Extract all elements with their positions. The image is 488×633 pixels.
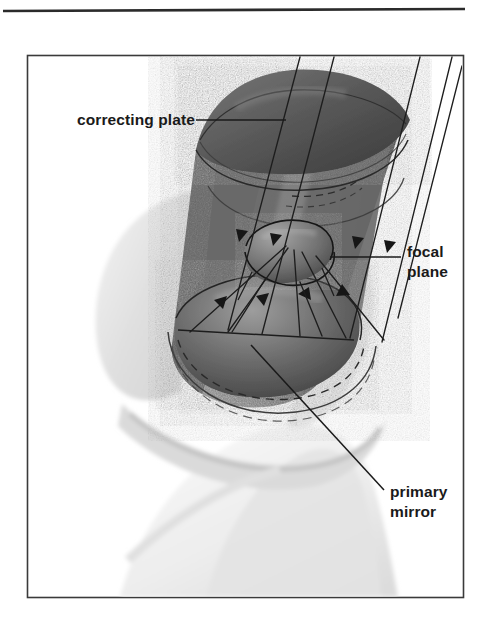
label-correcting-plate: correcting plate (77, 111, 195, 128)
label-primary-mirror-line2: mirror (390, 503, 436, 520)
label-primary-mirror-line1: primary (390, 483, 448, 500)
label-focal-plane-line1: focal (407, 243, 444, 260)
top-rule (3, 9, 465, 11)
label-focal-plane-line2: plane (407, 263, 448, 280)
figure-canvas: correcting plate focal plane primary mir… (0, 0, 488, 633)
